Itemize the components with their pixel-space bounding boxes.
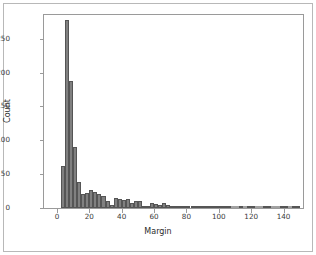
y-tick-mark [40, 208, 44, 209]
y-axis-label: Count [4, 99, 12, 123]
x-axis-label: Margin [0, 228, 316, 236]
y-tick-mark [40, 39, 44, 40]
histogram-bar [296, 206, 300, 208]
plot-area [44, 15, 303, 208]
y-tick-mark [40, 174, 44, 175]
y-tick-mark [40, 73, 44, 74]
chart-screenshot: 050100150200250 020406080100120140 Margi… [0, 0, 316, 255]
y-tick-label: 50 [0, 171, 10, 178]
y-tick-label: 200 [0, 69, 10, 76]
y-tick-label: 100 [0, 137, 10, 144]
y-tick-mark [40, 106, 44, 107]
y-tick-mark [40, 140, 44, 141]
y-tick-label: 0 [0, 204, 10, 211]
histogram-figure: 050100150200250 020406080100120140 Margi… [0, 0, 316, 255]
y-tick-label: 250 [0, 35, 10, 42]
x-tick-label: 140 [264, 213, 304, 220]
